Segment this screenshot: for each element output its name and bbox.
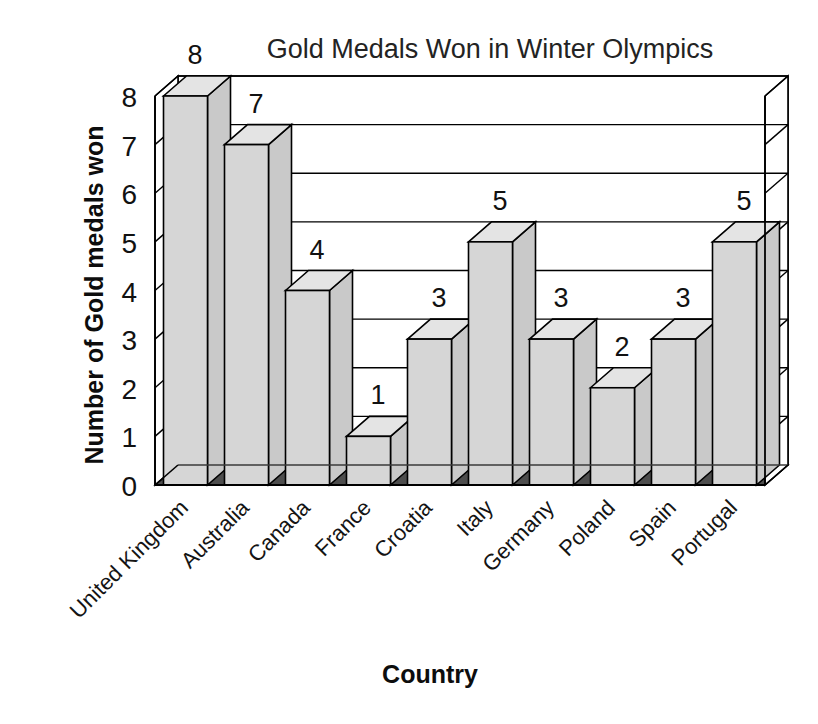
bar-side-face (757, 222, 780, 485)
bar-value-label: 7 (248, 89, 263, 119)
bar-column (591, 368, 658, 485)
bar-value-label: 3 (675, 283, 690, 313)
x-axis-title: Country (382, 660, 478, 688)
bar-front-face (469, 242, 513, 485)
bar-front-face (408, 339, 452, 485)
bar-value-label: 2 (614, 332, 629, 362)
bar-front-face (347, 436, 391, 485)
bar-value-label: 4 (309, 235, 324, 265)
bar-front-face (286, 291, 330, 486)
y-axis-ticks: 012345678 (121, 82, 137, 502)
y-tick-label: 2 (121, 374, 137, 405)
y-tick-label: 7 (121, 131, 137, 162)
bar-column (652, 319, 719, 485)
chart-container: Gold Medals Won in Winter Olympics Numbe… (0, 0, 818, 724)
bar-column (164, 76, 231, 485)
bar-front-face (530, 339, 574, 485)
bar-value-label: 3 (553, 283, 568, 313)
bar-column (713, 222, 780, 485)
y-axis-title: Number of Gold medals won (80, 126, 108, 465)
y-tick-label: 4 (121, 277, 137, 308)
bar-column (530, 319, 597, 485)
y-tick-label: 0 (121, 471, 137, 502)
bar-value-label: 3 (431, 283, 446, 313)
bar-column (469, 222, 536, 485)
y-tick-label: 1 (121, 422, 137, 453)
bar-value-label: 8 (187, 40, 202, 70)
bar-value-label: 5 (492, 186, 507, 216)
chart-title: Gold Medals Won in Winter Olympics (267, 34, 714, 64)
bar-value-label: 1 (370, 380, 385, 410)
bar-front-face (225, 145, 269, 485)
bar-chart-figure: Gold Medals Won in Winter Olympics Numbe… (0, 0, 818, 724)
bar-column (225, 125, 292, 485)
bar-column (347, 416, 414, 485)
bar-value-label: 5 (736, 186, 751, 216)
bar-column (286, 271, 353, 486)
bar-front-face (713, 242, 757, 485)
y-tick-label: 8 (121, 82, 137, 113)
bar-front-face (164, 96, 208, 485)
bar-front-face (591, 388, 635, 485)
bar-front-face (652, 339, 696, 485)
y-tick-label: 3 (121, 325, 137, 356)
y-tick-label: 6 (121, 179, 137, 210)
y-tick-label: 5 (121, 228, 137, 259)
bar-column (408, 319, 475, 485)
